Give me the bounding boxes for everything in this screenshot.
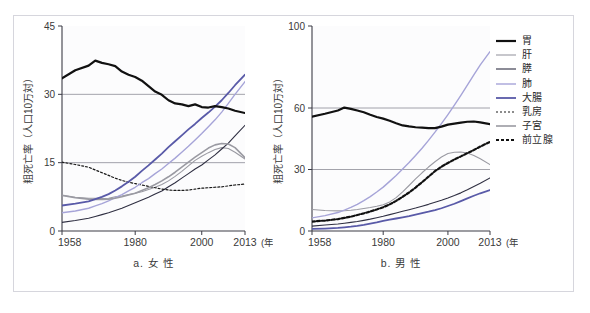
legend-label: 前立腺 [522, 135, 553, 145]
legend-swatch-icon [495, 135, 517, 145]
legend-item-肺: 肺 [495, 77, 573, 91]
y-tick-label: 100 [288, 21, 305, 32]
legend-label: 子宮 [522, 121, 543, 131]
panel-caption: b. 男 性 [381, 257, 422, 269]
x-tick-label: 1980 [372, 236, 396, 248]
y-axis-title: 粗死亡率（人口10万対） [22, 73, 34, 184]
legend-item-乳房: 乳房 [495, 105, 573, 119]
chart-legend: 胃肝膵肺大腸乳房子宮前立腺 [495, 34, 573, 148]
figure-root: 01530451958198020002013(年)粗死亡率（人口10万対）a.… [0, 0, 590, 313]
y-tick-label: 0 [299, 226, 305, 237]
x-tick-label: 2000 [436, 236, 460, 248]
y-tick-label: 30 [294, 164, 306, 175]
legend-item-膵: 膵 [495, 62, 573, 76]
y-tick-label: 15 [44, 157, 56, 168]
legend-swatch-icon [495, 36, 517, 46]
y-tick-label: 45 [44, 21, 56, 32]
x-tick-label: 2013 [233, 236, 257, 248]
legend-label: 肺 [522, 79, 532, 89]
x-tick-label: 2013 [478, 236, 502, 248]
x-tick-label: 1980 [124, 236, 148, 248]
legend-item-前立腺: 前立腺 [495, 133, 573, 147]
y-tick-label: 0 [49, 226, 55, 237]
legend-swatch-icon [495, 50, 517, 60]
legend-item-大腸: 大腸 [495, 91, 573, 105]
legend-swatch-icon [495, 107, 517, 117]
x-tick-label: 1958 [308, 236, 332, 248]
x-axis-unit: (年) [506, 237, 518, 248]
y-tick-label: 60 [294, 103, 306, 114]
panel-caption: a. 女 性 [133, 257, 174, 269]
female-chart-svg: 01530451958198020002013(年)粗死亡率（人口10万対）a.… [8, 0, 273, 277]
chart-panel-female: 01530451958198020002013(年)粗死亡率（人口10万対）a.… [8, 0, 273, 313]
legend-label: 大腸 [522, 93, 543, 103]
legend-item-肝: 肝 [495, 48, 573, 62]
x-tick-label: 2000 [190, 236, 214, 248]
chart-panel-male: 030601001958198020002013(年)粗死亡率（人口10万対）b… [258, 0, 518, 313]
male-chart-svg: 030601001958198020002013(年)粗死亡率（人口10万対）b… [258, 0, 518, 277]
legend-swatch-icon [495, 93, 517, 103]
legend-item-胃: 胃 [495, 34, 573, 48]
legend-label: 胃 [522, 36, 532, 46]
y-axis-title: 粗死亡率（人口10万対） [272, 73, 284, 184]
legend-item-子宮: 子宮 [495, 119, 573, 133]
legend-swatch-icon [495, 121, 517, 131]
legend-label: 乳房 [522, 107, 543, 117]
legend-swatch-icon [495, 64, 517, 74]
x-tick-label: 1958 [58, 236, 82, 248]
legend-swatch-icon [495, 79, 517, 89]
legend-label: 膵 [522, 64, 532, 74]
y-tick-label: 30 [44, 89, 56, 100]
legend-label: 肝 [522, 50, 532, 60]
